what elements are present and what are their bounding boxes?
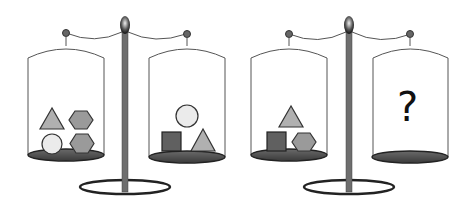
beam-wire-right — [128, 32, 186, 39]
pan-hook-left — [286, 31, 293, 38]
circle-shape — [42, 134, 62, 154]
triangle-shape — [279, 106, 303, 127]
pan-right — [149, 151, 225, 163]
circle-shape — [176, 105, 198, 127]
balance-puzzle: ? — [0, 0, 473, 219]
pan-hook-right — [184, 31, 191, 38]
triangle-shape — [191, 129, 215, 151]
pan-right — [372, 151, 448, 163]
pole-knob — [120, 16, 130, 34]
pan-left — [251, 149, 327, 161]
pan-hook-left — [63, 30, 70, 37]
square-shape — [267, 132, 286, 151]
pan-cup-left — [251, 49, 327, 155]
pan-hook-right — [407, 31, 414, 38]
scale-2 — [251, 16, 448, 194]
scale-1 — [28, 16, 225, 194]
beam-wire-left — [66, 32, 122, 39]
beam-wire-right — [352, 32, 411, 40]
triangle-shape — [40, 108, 64, 129]
pole-knob — [344, 16, 354, 34]
hexagon-shape — [70, 134, 94, 153]
pan-cup-right — [149, 49, 225, 157]
scale-pole — [346, 30, 352, 192]
square-shape — [162, 132, 181, 151]
hexagon-shape — [292, 133, 316, 151]
pan-left — [28, 149, 104, 161]
scale-pole — [122, 30, 128, 192]
pan-cup-left — [28, 49, 104, 155]
unknown-weight-label: ? — [397, 87, 418, 127]
beam-wire-left — [289, 32, 346, 40]
hexagon-shape — [69, 111, 93, 129]
